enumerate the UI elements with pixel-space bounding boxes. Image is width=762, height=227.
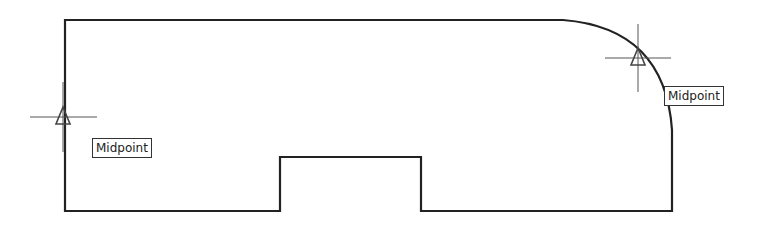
crosshair-cursor-left <box>30 82 97 152</box>
part-outline[interactable] <box>65 20 672 211</box>
snap-tooltip-right-label: Midpoint <box>668 89 720 103</box>
drawing-canvas[interactable] <box>0 0 762 227</box>
snap-tooltip-left: Midpoint <box>92 138 152 158</box>
snap-tooltip-right: Midpoint <box>664 86 724 106</box>
snap-tooltip-left-label: Midpoint <box>96 141 148 155</box>
